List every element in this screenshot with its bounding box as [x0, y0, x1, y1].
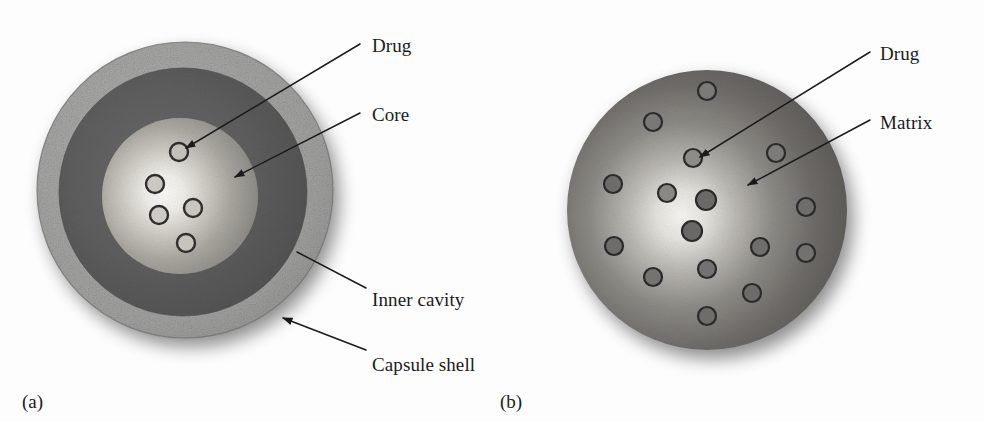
drug-particle [797, 244, 815, 262]
drug-particle [767, 144, 785, 162]
callout-label-drug-b: Drug [880, 44, 919, 63]
drug-particle [146, 175, 164, 193]
panel-label-a: (a) [22, 392, 43, 411]
drug-particle [696, 190, 716, 210]
drug-particle [751, 238, 769, 256]
drug-particle [743, 284, 761, 302]
drug-particle [177, 234, 195, 252]
callout-label-core: Core [372, 105, 409, 124]
drug-particle [797, 198, 815, 216]
callout-line-capsule-shell [283, 318, 366, 350]
drug-particle [698, 82, 716, 100]
callout-label-matrix: Matrix [880, 113, 932, 132]
callout-label-inner-cavity: Inner cavity [372, 290, 464, 309]
panel-label-b: (b) [500, 392, 522, 411]
drug-particle [658, 184, 676, 202]
drug-particle [684, 149, 702, 167]
drug-particle [605, 237, 623, 255]
drug-particle [644, 268, 662, 286]
drug-particle [150, 206, 168, 224]
drug-particle [698, 307, 716, 325]
drug-delivery-system-diagram [0, 0, 984, 422]
drug-particle [604, 175, 622, 193]
drug-particle [184, 199, 202, 217]
figure-canvas: Drug Core Inner cavity Capsule shell (a)… [0, 0, 984, 422]
drug-particle [682, 221, 702, 241]
panel-a-reservoir-system [37, 42, 366, 350]
drug-particle [644, 113, 662, 131]
drug-particle [698, 260, 716, 278]
callout-label-drug-a: Drug [372, 36, 411, 55]
callout-label-capsule-shell: Capsule shell [372, 355, 475, 374]
drug-particle [170, 143, 188, 161]
panel-b-matrix-system [567, 52, 870, 350]
